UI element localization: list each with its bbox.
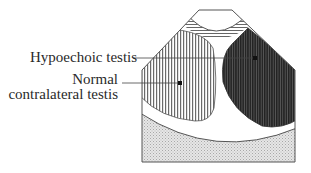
- hypoechoic-pointer-dot: [253, 56, 257, 60]
- normal-label-line1: Normal: [20, 72, 118, 87]
- hypoechoic-label: Hypoechoic testis: [30, 50, 128, 65]
- normal-testis: [140, 30, 216, 121]
- normal-pointer-dot: [178, 81, 182, 85]
- hypoechoic-testis: [222, 28, 300, 127]
- normal-label-line2: contralateral testis: [0, 87, 118, 102]
